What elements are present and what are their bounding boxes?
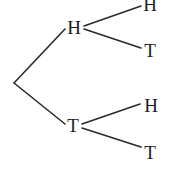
node-leaf-tails-heads: H: [141, 96, 161, 115]
node-leaf-tails-tails: T: [140, 143, 160, 162]
edge-h-to-hh: [84, 6, 141, 26]
edge-root-to-h: [14, 29, 65, 83]
edge-t-to-tt: [82, 128, 141, 147]
edge-root-to-t: [14, 83, 65, 124]
edge-t-to-th: [82, 104, 140, 124]
node-leaf-heads-tails: T: [140, 41, 160, 60]
node-leaf-heads-heads: H: [140, 0, 160, 14]
node-level1-heads: H: [64, 18, 84, 37]
node-level1-tails: T: [63, 116, 83, 135]
coin-flip-tree-diagram: H T H T H T: [0, 0, 172, 177]
edge-h-to-ht: [84, 29, 141, 48]
